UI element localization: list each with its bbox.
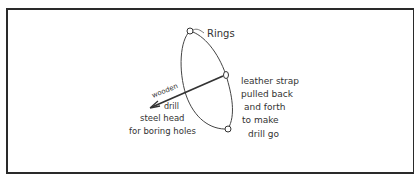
drill-label: drill <box>164 102 179 111</box>
rings-label: Rings <box>207 28 235 39</box>
ring-top-icon <box>187 28 193 34</box>
strap-label-1: leather strap <box>241 76 299 86</box>
bow-drill-diagram: Rings wooden drill steel head for boring… <box>0 0 417 177</box>
ring-middle-icon <box>224 72 229 79</box>
strap-label-2: pulled back <box>241 89 294 99</box>
leather-strap-loop <box>181 31 232 129</box>
steel-head-label-2: for boring holes <box>129 126 197 136</box>
ring-bottom-icon <box>225 126 231 132</box>
strap-label-5: drill go <box>248 129 279 139</box>
strap-label-4: to make <box>242 115 279 125</box>
strap-label-3: and forth <box>244 102 285 112</box>
steel-head-label-1: steel head <box>140 113 185 123</box>
